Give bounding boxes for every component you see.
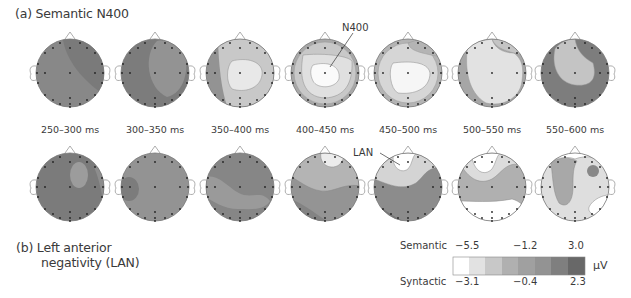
topomap-b-4 bbox=[285, 146, 365, 227]
topomap-a-6 bbox=[452, 32, 532, 108]
topomap-b-3 bbox=[200, 146, 280, 222]
colorbar-unit: μV bbox=[593, 259, 608, 272]
topomap-b-6 bbox=[452, 146, 532, 227]
colorbar-syntactic-label: Syntactic bbox=[400, 276, 446, 287]
colorbar-semantic-tick: −5.5 bbox=[455, 240, 479, 251]
topomap-a-7 bbox=[535, 32, 615, 108]
colorbar-syntactic-tick: −0.4 bbox=[513, 276, 537, 287]
colorbar-semantic-tick: −1.2 bbox=[513, 240, 537, 251]
colorbar-syntactic-tick: −3.1 bbox=[455, 276, 479, 287]
colorbar-syntactic-tick: 2.3 bbox=[570, 276, 586, 287]
topography-figure bbox=[0, 0, 631, 298]
colorbar-semantic-label: Semantic bbox=[400, 240, 447, 251]
topomap-a-1 bbox=[30, 32, 110, 108]
topomap-a-3 bbox=[200, 32, 280, 113]
topomap-b-2 bbox=[115, 146, 195, 222]
topomap-b-5 bbox=[368, 146, 448, 227]
colorbar bbox=[453, 257, 585, 275]
topomap-a-2 bbox=[115, 32, 195, 108]
topomap-a-4 bbox=[285, 32, 365, 108]
topomap-b-7 bbox=[535, 146, 615, 222]
colorbar-semantic-tick: 3.0 bbox=[568, 240, 584, 251]
topomap-b-1 bbox=[30, 146, 110, 222]
topomap-a-5 bbox=[368, 32, 448, 108]
